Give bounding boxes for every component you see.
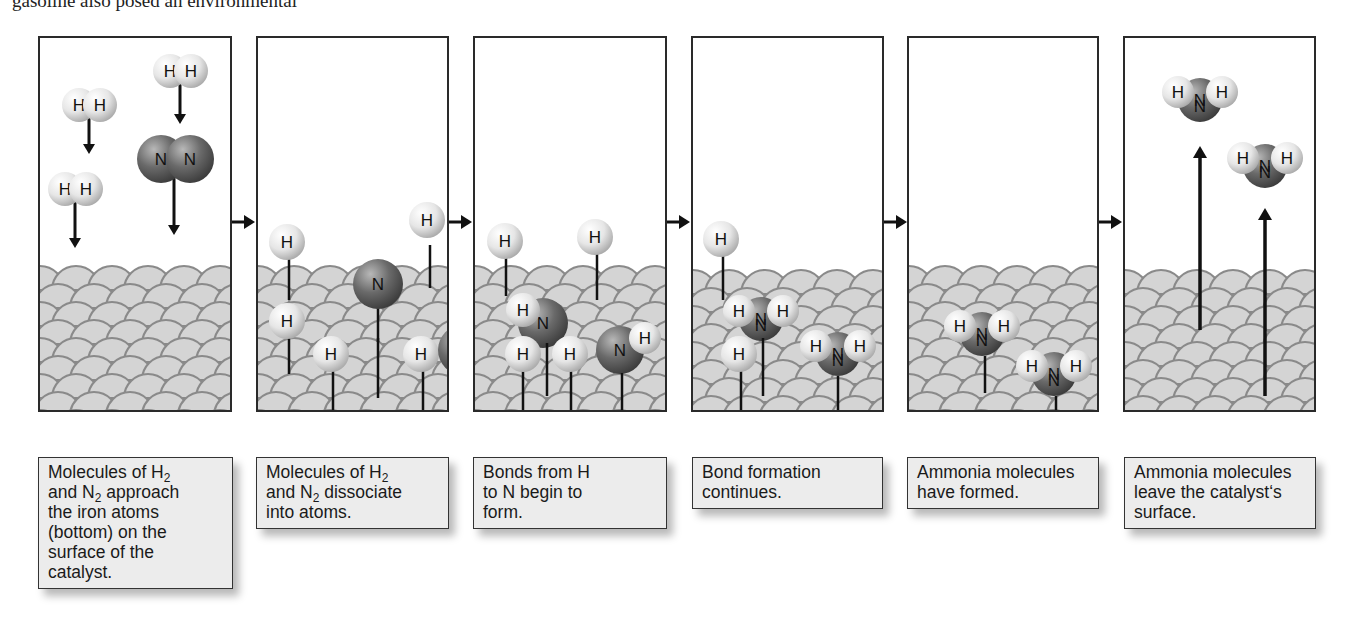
caption-line: and N2 approach xyxy=(48,482,226,502)
svg-text:N: N xyxy=(614,341,626,360)
caption-line: Molecules of H2 xyxy=(266,462,442,482)
caption-line: Bonds from H xyxy=(483,462,660,482)
svg-text:N: N xyxy=(1194,97,1206,116)
down-arrow-icon xyxy=(168,225,180,235)
hydrogen-atom: H xyxy=(629,322,661,354)
hydrogen-atom: H xyxy=(944,310,976,342)
svg-text:H: H xyxy=(80,180,92,199)
svg-text:H: H xyxy=(954,317,966,336)
hydrogen-atom: H xyxy=(269,303,305,339)
caption-line: have formed. xyxy=(917,482,1092,502)
hydrogen-atom: H xyxy=(1227,142,1259,174)
caption-line: surface of the xyxy=(48,542,226,562)
svg-text:N: N xyxy=(537,314,549,333)
hydrogen-atom: H xyxy=(1016,350,1048,382)
hydrogen-atom: H xyxy=(69,172,103,206)
hydrogen-atom: H xyxy=(83,88,117,122)
hydrogen-atom: H xyxy=(409,202,445,238)
svg-text:H: H xyxy=(589,228,601,247)
caption-6: Ammonia moleculesleave the catalyst‘ssur… xyxy=(1124,457,1316,529)
panel-2-dissociate: HHNHHHN xyxy=(256,36,449,412)
down-arrow-icon xyxy=(83,144,95,154)
up-arrow-icon xyxy=(1193,146,1207,158)
up-arrow-icon xyxy=(1258,208,1272,220)
hydrogen-atom: H xyxy=(844,330,876,362)
svg-text:N: N xyxy=(372,275,384,294)
hydrogen-atom: H xyxy=(505,336,541,372)
svg-text:H: H xyxy=(1026,357,1038,376)
step-arrow-icon xyxy=(884,212,908,232)
hydrogen-atom: H xyxy=(721,336,757,372)
svg-text:H: H xyxy=(854,337,866,356)
caption-line: (bottom) on the xyxy=(48,522,226,542)
svg-text:H: H xyxy=(185,62,197,81)
iron-catalyst-surface xyxy=(40,266,230,410)
svg-text:H: H xyxy=(810,337,822,356)
svg-text:N: N xyxy=(1259,163,1271,182)
caption-line: and N2 dissociate xyxy=(266,482,442,502)
page-text-fragment: gasoline also posed an environmental xyxy=(12,0,297,16)
step-arrow-icon xyxy=(1099,212,1123,232)
caption-line: Molecules of H2 xyxy=(48,462,226,482)
svg-text:H: H xyxy=(715,230,727,249)
svg-text:H: H xyxy=(564,345,576,364)
svg-text:H: H xyxy=(421,211,433,230)
caption-2: Molecules of H2and N2 dissociateinto ato… xyxy=(256,457,449,529)
hydrogen-atom: H xyxy=(767,295,799,327)
svg-text:H: H xyxy=(1172,83,1184,102)
svg-text:N: N xyxy=(755,316,767,335)
hydrogen-atom: H xyxy=(313,336,349,372)
caption-line: Bond formation xyxy=(702,462,876,482)
caption-5: Ammonia moleculeshave formed. xyxy=(907,457,1099,509)
down-arrow-icon xyxy=(69,238,81,248)
hydrogen-atom: H xyxy=(506,293,540,327)
nitrogen-atom: N xyxy=(353,259,403,309)
step-arrow-icon xyxy=(232,212,256,232)
hydrogen-atom: H xyxy=(269,224,305,260)
caption-line: continues. xyxy=(702,482,876,502)
caption-line: the iron atoms xyxy=(48,502,226,522)
caption-line: Ammonia molecules xyxy=(1134,462,1309,482)
svg-text:H: H xyxy=(733,302,745,321)
svg-text:H: H xyxy=(733,345,745,364)
svg-text:H: H xyxy=(998,317,1010,336)
caption-3: Bonds from Hto N begin toform. xyxy=(473,457,667,529)
caption-1: Molecules of H2and N2 approachthe iron a… xyxy=(38,457,233,589)
svg-text:H: H xyxy=(281,312,293,331)
caption-4: Bond formationcontinues. xyxy=(692,457,883,509)
down-arrow-icon xyxy=(174,114,186,124)
hydrogen-atom: H xyxy=(1271,142,1303,174)
hydrogen-atom: H xyxy=(800,330,832,362)
nitrogen-atom: N xyxy=(166,135,214,183)
hydrogen-atom: H xyxy=(174,54,208,88)
svg-text:H: H xyxy=(325,345,337,364)
svg-text:N: N xyxy=(155,150,167,169)
svg-text:H: H xyxy=(415,345,427,364)
step-arrow-icon xyxy=(667,212,691,232)
panel-1-approach: HHHHHHNN xyxy=(38,36,232,412)
svg-text:H: H xyxy=(1070,357,1082,376)
svg-text:H: H xyxy=(517,301,529,320)
svg-text:H: H xyxy=(1237,149,1249,168)
caption-line: into atoms. xyxy=(266,502,442,522)
iron-catalyst-surface xyxy=(1125,270,1314,410)
hydrogen-atom: H xyxy=(1060,350,1092,382)
hydrogen-atom: H xyxy=(1206,76,1238,108)
caption-line: leave the catalyst‘s xyxy=(1134,482,1309,502)
hydrogen-atom: H xyxy=(552,336,588,372)
svg-text:H: H xyxy=(94,96,106,115)
hydrogen-atom: H xyxy=(487,223,523,259)
caption-line: catalyst. xyxy=(48,562,226,582)
hydrogen-atom: H xyxy=(988,310,1020,342)
caption-line: Ammonia molecules xyxy=(917,462,1092,482)
hydrogen-atom: H xyxy=(577,219,613,255)
hydrogen-atom: H xyxy=(703,221,739,257)
svg-text:H: H xyxy=(499,232,511,251)
svg-text:H: H xyxy=(1281,149,1293,168)
panel-6-ammonia-leaves: NHHNNHHN xyxy=(1123,36,1316,412)
svg-text:N: N xyxy=(184,150,196,169)
svg-text:H: H xyxy=(517,345,529,364)
svg-text:H: H xyxy=(281,233,293,252)
panel-4-bond-formation: HNHHNHNHHN xyxy=(691,36,884,412)
svg-text:N: N xyxy=(976,331,988,350)
